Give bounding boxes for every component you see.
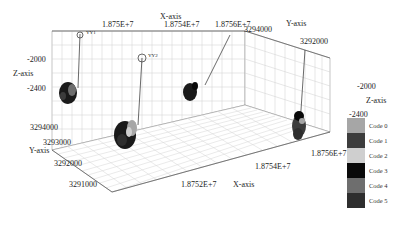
z-tick-left-1: -2000 [27,56,46,64]
legend-swatch [347,163,365,178]
legend: Code 0 Code 1 Code 2 Code 3 Code 4 Code … [347,118,388,208]
legend-swatch [347,133,365,148]
legend-entry: Code 3 [347,163,388,178]
x-tick-top-1: 1.875E+7 [102,21,133,29]
legend-entry: Code 0 [347,118,388,133]
well-label-yy1: YY1 [86,30,96,35]
y-tick-left-4: 3291000 [69,181,97,189]
y-tick-top-2: 3292000 [300,38,328,46]
legend-label: Code 4 [369,182,388,189]
y-tick-left-1: 3294000 [30,124,58,132]
legend-label: Code 1 [369,137,388,144]
z-axis-title-right: Z-axis [366,97,386,105]
legend-label: Code 5 [369,197,388,204]
x-axis-title-bottom: X-axis [233,181,254,189]
legend-label: Code 0 [369,122,388,129]
legend-swatch [347,178,365,193]
y-axis-title-top: Y-axis [286,20,306,28]
z-tick-right-1: -2000 [357,83,376,91]
legend-entry: Code 4 [347,178,388,193]
legend-swatch [347,193,365,208]
x-tick-top-2: 1.8754E+7 [164,21,199,29]
legend-entry: Code 2 [347,148,388,163]
x-tick-bottom-2: 1.8754E+7 [255,163,290,171]
legend-label: Code 3 [369,167,388,174]
legend-swatch [347,118,365,133]
legend-label: Code 2 [369,152,388,159]
z-axis-title-left: Z-axis [13,70,33,78]
y-tick-left-3: 3292000 [54,160,82,168]
legend-entry: Code 1 [347,133,388,148]
legend-entry: Code 5 [347,193,388,208]
z-tick-left-2: -2400 [27,85,46,93]
y-tick-top-1: 3294000 [244,26,272,34]
cluster-left-back [59,82,77,104]
well-label-yy2: YY2 [148,53,158,58]
x-tick-bottom-1: 1.8752E+7 [181,181,216,189]
legend-swatch [347,148,365,163]
x-tick-bottom-3: 1.8756E+7 [311,150,346,158]
y-axis-title-left: Y-axis [29,147,49,155]
